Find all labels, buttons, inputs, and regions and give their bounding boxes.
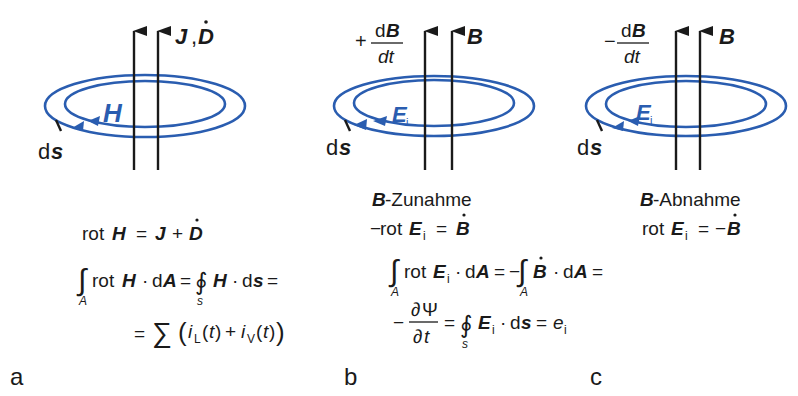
eq-equals: = (267, 270, 278, 291)
inner-field-loop (606, 81, 766, 127)
eq-A: A (162, 270, 177, 291)
loop-direction-arrow-icon (72, 121, 84, 131)
time-derivative-dot (733, 213, 736, 216)
inner-field-loop (65, 81, 225, 127)
equation-current-sum: = ∑ ( i L ( t ) + i V ( t ) ) (134, 317, 285, 348)
paren: ) (269, 321, 275, 342)
panel-label-a: a (10, 363, 24, 390)
equation-ampere-differential: rot H = J + D (82, 218, 203, 244)
eq-e: e (553, 312, 564, 333)
panel-label-b: b (344, 363, 357, 390)
eq-cdot: · (455, 261, 461, 282)
loop-direction-arrow-icon (354, 119, 367, 130)
sub-i: i (564, 323, 567, 337)
contour-integral-sign: ∮ (195, 268, 208, 296)
flux-label-sep: , (191, 24, 197, 49)
time-derivative-dot (462, 213, 465, 216)
rate-sign: + (355, 30, 367, 52)
integral-subscript-A: A (519, 285, 528, 299)
panel-label-c: c (590, 363, 602, 390)
eq-equals: = (180, 270, 191, 291)
eq-H: H (112, 223, 127, 244)
field-label-sub-i: i (406, 116, 408, 128)
time-derivative-dot (195, 218, 198, 221)
eq-rot: rot (404, 261, 427, 282)
eq-rot: rot (82, 223, 105, 244)
partial: ∂ (411, 299, 420, 320)
eq-equals: = (436, 218, 447, 239)
eq-equals: = (536, 312, 547, 333)
eq-d: d (152, 270, 163, 291)
eq-t: t (424, 326, 430, 347)
paren: ) (215, 321, 221, 342)
sub-V: V (247, 332, 255, 346)
eq-d: d (510, 312, 521, 333)
caption-zunahme: -Zunahme (385, 189, 472, 210)
panel-c: B − d B dt E i d s B -Abnahme rot E i = … (577, 20, 786, 390)
contour-integral-sign: ∮ (460, 311, 473, 339)
sum-sign: ∑ (152, 317, 172, 348)
equation-ampere-integral: ∫ A rot H · d A = ∮ s H · d s = (76, 263, 278, 308)
sub-i: i (423, 229, 426, 243)
eq-i: i (241, 321, 246, 342)
eq-equals: = (592, 261, 603, 282)
psi: Ψ (422, 299, 438, 320)
eq-E: E (409, 218, 423, 239)
eq-s: s (253, 270, 264, 291)
eq-B: B (533, 261, 547, 282)
eq-s: s (521, 312, 532, 333)
caption-B: B (640, 189, 654, 210)
field-label-H: H (103, 98, 123, 128)
eq-rot: rot (92, 270, 115, 291)
flux-label-B: B (719, 24, 735, 49)
rate-numerator-d: d (621, 20, 632, 41)
panel-a: J , D H d s rot H = J + D ∫ A rot H · d … (10, 20, 285, 390)
sub-i: i (492, 323, 495, 337)
big-paren-close: ) (276, 317, 285, 347)
integral-sign: ∫ (516, 254, 528, 288)
rate-sign: − (604, 30, 616, 52)
electromagnetic-induction-diagram: J , D H d s rot H = J + D ∫ A rot H · d … (0, 0, 798, 396)
rate-numerator-B: B (632, 20, 646, 41)
eq-B: B (456, 218, 470, 239)
inner-field-loop (354, 80, 514, 126)
eq-d: d (563, 261, 574, 282)
eq-cdot: · (553, 261, 559, 282)
sub-i: i (685, 229, 688, 243)
eq-cdot: · (232, 270, 238, 291)
eq-E: E (433, 261, 447, 282)
equation-faraday-differential-increase: − rot E i = B (370, 213, 470, 243)
equation-faraday-differential-decrease: rot E i = − B (642, 213, 741, 243)
eq-rot: rot (380, 218, 403, 239)
eq-E: E (671, 218, 685, 239)
eq-minus: − (393, 312, 404, 333)
contour-subscript-s: s (197, 294, 203, 308)
caption-B: B (372, 189, 386, 210)
time-derivative-dot (539, 256, 542, 259)
eq-H: H (122, 270, 137, 291)
panel-b: B + d B dt E i d s B -Zunahme − rot E i … (326, 20, 603, 390)
big-paren-open: ( (178, 317, 187, 347)
eq-plus: + (172, 223, 183, 244)
flux-label-D: D (198, 24, 214, 49)
eq-D: D (189, 223, 203, 244)
loop-direction-arrow-icon (88, 116, 100, 126)
equation-faraday-integral: ∫ A rot E i · d A = − ∫ A B · d A = (388, 254, 603, 299)
ds-label-d: d (326, 135, 338, 160)
eq-equals: = (136, 223, 147, 244)
eq-H: H (213, 270, 228, 291)
ds-label-s: s (590, 135, 602, 160)
equation-induced-emf: − ∂ Ψ ∂ t = ∮ s E i · d s = e i (393, 299, 567, 351)
ds-label-d: d (577, 135, 589, 160)
eq-d: d (242, 270, 253, 291)
eq-J: J (155, 223, 166, 244)
eq-i: i (188, 321, 193, 342)
eq-cdot: · (500, 312, 506, 333)
ds-label-d: d (38, 139, 50, 164)
integral-sign: ∫ (388, 254, 400, 288)
rate-numerator-d: d (375, 20, 386, 41)
eq-equals: = (134, 323, 145, 344)
partial: ∂ (413, 326, 422, 347)
eq-d: d (465, 261, 476, 282)
rate-denominator: dt (378, 46, 395, 67)
